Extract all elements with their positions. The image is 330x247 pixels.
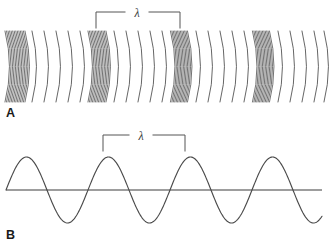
panel-label-b: B (6, 228, 15, 242)
lambda-symbol-b: λ (137, 129, 143, 143)
lambda-symbol-a: λ (133, 6, 139, 20)
wave-diagram-svg: λ A λ B (0, 0, 330, 247)
wave-diagram-figure: λ A λ B (0, 0, 330, 247)
figure-background (0, 0, 330, 247)
panel-label-a: A (6, 106, 15, 120)
